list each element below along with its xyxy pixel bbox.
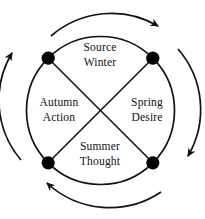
node-southwest-icon (42, 156, 55, 169)
quadrant-west-line2: Action (29, 110, 89, 125)
quadrant-north-line2: Winter (60, 55, 140, 70)
cycle-diagram: Source Winter Spring Desire Summer Thoug… (0, 0, 205, 219)
node-northwest-icon (42, 52, 55, 65)
node-southeast-icon (146, 156, 159, 169)
arrow-right (178, 49, 201, 156)
node-northeast-icon (146, 52, 159, 65)
quadrant-east-line2: Desire (118, 110, 176, 125)
quadrant-west-line1: Autumn (29, 95, 89, 110)
arrow-left (0, 53, 21, 160)
quadrant-south-line1: Summer (58, 139, 142, 154)
quadrant-label-north: Source Winter (60, 40, 140, 70)
arrow-top (51, 13, 158, 36)
arrow-bottom (47, 183, 161, 208)
quadrant-label-east: Spring Desire (118, 95, 176, 125)
quadrant-south-line2: Thought (58, 154, 142, 169)
quadrant-north-line1: Source (60, 40, 140, 55)
quadrant-label-west: Autumn Action (29, 95, 89, 125)
quadrant-east-line1: Spring (118, 95, 176, 110)
quadrant-label-south: Summer Thought (58, 139, 142, 169)
